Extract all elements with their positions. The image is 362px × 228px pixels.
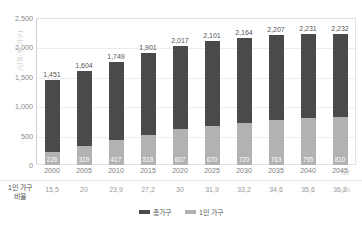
y-axis-tick: 0 — [0, 161, 33, 170]
legend-item-single-person-households[interactable]: 1인 가구 — [185, 207, 223, 217]
ratio-value: 31,9 — [205, 186, 219, 193]
x-axis-tick: 2005 — [76, 167, 92, 174]
ratio-row-divider — [0, 180, 362, 181]
ratio-row-label: 1인 가구 비율 — [2, 183, 38, 201]
legend-label: 총가구 — [153, 207, 171, 217]
ratio-value-row: 15,52023,927,23031,933,234,635,636,2 — [36, 186, 356, 198]
bar-value-label-single: 226 — [47, 156, 58, 163]
bar-value-label-total: 1,604 — [75, 62, 93, 69]
x-axis-tick: 2040 — [300, 167, 316, 174]
bar-value-label-total: 1,901 — [139, 44, 157, 51]
ratio-row-label-line1: 1인 가구 — [2, 183, 38, 192]
bar-value-label-total: 2,232 — [331, 25, 349, 32]
bar-value-label-total: 2,231 — [299, 25, 317, 32]
x-axis-tick: 2035 — [268, 167, 284, 174]
ratio-value: 30 — [176, 186, 184, 193]
x-axis-tick: 2000 — [44, 167, 60, 174]
bar-value-label-single: 763 — [271, 156, 282, 163]
legend-swatch-icon — [139, 210, 150, 214]
ratio-unit-label: (%) — [342, 187, 350, 193]
bar-value-label-single: 795 — [303, 156, 314, 163]
y-axis-tick: 2,000 — [0, 43, 33, 52]
bar-value-label-single: 518 — [143, 156, 154, 163]
y-axis-tick: 2,500 — [0, 14, 33, 23]
x-axis-tick: 2025 — [204, 167, 220, 174]
x-axis-tick-labels: 2000200520102015202020252030203520402045 — [36, 167, 356, 179]
chart-legend: 총가구1인 가구 — [0, 207, 362, 217]
ratio-value: 20 — [80, 186, 88, 193]
x-axis-tick: 2015 — [140, 167, 156, 174]
legend-swatch-icon — [185, 210, 196, 214]
x-axis-tick: 2020 — [172, 167, 188, 174]
bar-value-label-single: 417 — [111, 156, 122, 163]
bar-value-label-single: 720 — [239, 156, 250, 163]
bar-value-label-total: 2,017 — [171, 37, 189, 44]
bar-value-label-total: 1,451 — [43, 71, 61, 78]
legend-item-total-households[interactable]: 총가구 — [139, 207, 171, 217]
y-axis-tick: 1,000 — [0, 102, 33, 111]
bar-value-label-total: 2,207 — [267, 26, 285, 33]
ratio-value: 27,2 — [141, 186, 155, 193]
ratio-value: 35,6 — [301, 186, 315, 193]
ratio-value: 34,6 — [269, 186, 283, 193]
bar-value-label-total: 2,164 — [235, 29, 253, 36]
x-axis-tick: 2010 — [108, 167, 124, 174]
bar-value-label-single: 670 — [207, 156, 218, 163]
ratio-value: 15,5 — [45, 186, 59, 193]
bar-value-label-total: 1,749 — [107, 53, 125, 60]
x-axis-tick: 2030 — [236, 167, 252, 174]
bar-value-label-single: 319 — [79, 156, 90, 163]
bar-value-label-total: 2,101 — [203, 32, 221, 39]
chart-root: (단위: 만 가구) 2,5002,0001,5001,0005000 1,45… — [0, 0, 362, 228]
legend-label: 1인 가구 — [199, 207, 223, 217]
ratio-value: 23,9 — [109, 186, 123, 193]
bar-value-label-single: 810 — [335, 156, 346, 163]
x-axis-unit-label: (년) — [341, 168, 350, 176]
bar-value-label-single: 607 — [175, 156, 186, 163]
bar-series-container: 1,4512261,6043191,7494171,9015182,017607… — [36, 18, 356, 165]
ratio-value: 33,2 — [237, 186, 251, 193]
y-axis-tick: 1,500 — [0, 73, 33, 82]
ratio-row-label-line2: 비율 — [2, 192, 38, 201]
y-axis-tick: 500 — [0, 132, 33, 141]
